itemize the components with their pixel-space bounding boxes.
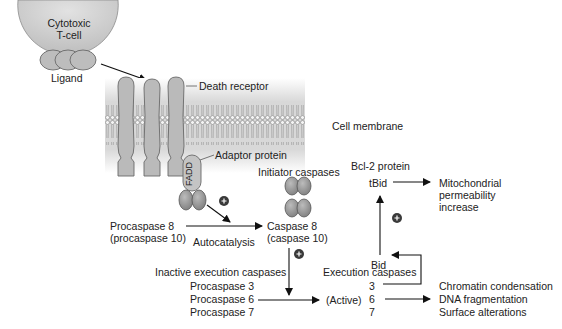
- outcome-dna-fragmentation: DNA fragmentation: [439, 293, 553, 305]
- plus-badge-icon: [294, 249, 304, 259]
- inactive-execution-caspases-label: Inactive execution caspases: [155, 266, 286, 278]
- procaspase-3: Procaspase 3: [190, 280, 254, 292]
- lipid-bilayer: [105, 105, 305, 145]
- t-cell-label: Cytotoxic T-cell: [42, 17, 96, 41]
- plus-badge-icon: [219, 196, 229, 206]
- initiator-caspases-label: Initiator caspases: [258, 166, 340, 178]
- active-caspase-numbers: 3 6 7: [369, 280, 375, 318]
- mitochondrial-line2: permeability: [439, 189, 501, 201]
- bcl2-protein-label: Bcl-2 protein: [351, 160, 410, 172]
- initiator-caspase-dimers-icon: [285, 177, 311, 217]
- tbid-label: tBid: [369, 177, 387, 189]
- plus-badge-icon: [392, 213, 402, 223]
- death-receptor-icon: [118, 77, 184, 176]
- t-cell-label-line1: Cytotoxic: [42, 17, 96, 29]
- procaspase-list: Procaspase 3 Procaspase 6 Procaspase 7: [190, 280, 254, 318]
- ligand-label: Ligand: [51, 72, 83, 84]
- caspase8-line2: (caspase 10): [267, 232, 328, 244]
- apoptosis-outcomes: Chromatin condensation DNA fragmentation…: [439, 280, 553, 318]
- procaspase8-line1: Procaspase 8: [110, 220, 186, 232]
- procaspase8-line2: (procaspase 10): [110, 232, 186, 244]
- adaptor-protein-label: Adaptor protein: [215, 149, 287, 161]
- t-cell-label-line2: T-cell: [42, 29, 96, 41]
- procaspase-7: Procaspase 7: [190, 306, 254, 318]
- active-caspase-3: 3: [369, 280, 375, 292]
- caspase8-label: Caspase 8 (caspase 10): [267, 220, 328, 244]
- active-caspase-6: 6: [369, 293, 375, 305]
- mitochondrial-label: Mitochondrial permeability increase: [439, 177, 501, 213]
- active-label: (Active): [326, 294, 362, 306]
- caspase8-line1: Caspase 8: [267, 220, 328, 232]
- death-receptor-label: Death receptor: [199, 80, 268, 92]
- mitochondrial-line1: Mitochondrial: [439, 177, 501, 189]
- activation-arrow: [207, 205, 230, 222]
- outcome-chromatin-condensation: Chromatin condensation: [439, 280, 553, 292]
- outcome-surface-alterations: Surface alterations: [439, 306, 553, 318]
- cell-membrane-label: Cell membrane: [332, 120, 403, 132]
- procaspase-dimer-icon: [179, 190, 206, 210]
- active-caspase-7: 7: [369, 306, 375, 318]
- procaspase8-label: Procaspase 8 (procaspase 10): [110, 220, 186, 244]
- autocatalysis-label: Autocatalysis: [193, 236, 255, 248]
- fadd-label: FADD: [184, 162, 194, 187]
- procaspase-6: Procaspase 6: [190, 293, 254, 305]
- ligand-trimer-icon: [40, 50, 96, 70]
- execution-caspases-label: Execution caspases: [323, 266, 416, 278]
- mitochondrial-line3: increase: [439, 201, 501, 213]
- fadd-adaptor-icon: FADD: [183, 155, 201, 191]
